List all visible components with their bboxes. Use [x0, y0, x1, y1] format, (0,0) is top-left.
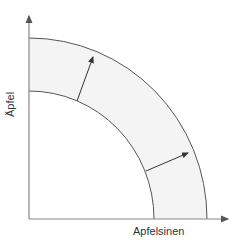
- ppf-diagram: [0, 0, 240, 244]
- x-axis-label: Apfelsinen: [133, 225, 184, 237]
- y-axis-label: Äpfel: [4, 92, 16, 117]
